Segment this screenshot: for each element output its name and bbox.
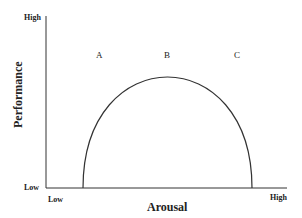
- chart-canvas: [0, 0, 302, 218]
- point-label-c: C: [234, 51, 240, 60]
- point-label-b: B: [164, 51, 170, 60]
- performance-curve: [83, 77, 252, 188]
- x-tick-high: High: [270, 194, 287, 202]
- y-tick-high: High: [24, 14, 41, 22]
- y-tick-low: Low: [24, 184, 39, 192]
- x-tick-low: Low: [48, 196, 63, 204]
- x-axis-title: Arousal: [147, 201, 187, 213]
- y-axis-title: Performance: [12, 68, 24, 128]
- point-label-a: A: [96, 51, 103, 60]
